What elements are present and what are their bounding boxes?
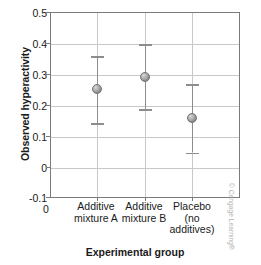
y-tick-label: 0.3 (17, 70, 47, 80)
data-point-group[interactable] (145, 13, 146, 197)
error-bar-cap-lower (91, 123, 104, 125)
data-point-group[interactable] (192, 13, 193, 197)
y-tick-label: 0.5 (17, 8, 47, 18)
x-tick-label-line: additives) (157, 224, 227, 236)
error-bar-cap-upper (139, 44, 152, 46)
y-tick-label: 0 (17, 163, 47, 173)
error-bar-cap-upper (91, 56, 104, 58)
error-bar-cap-lower (139, 109, 152, 111)
x-tick-label-placebo: Placebo (no additives) (157, 201, 227, 236)
chart-figure: Observed hyperactivity 0.5 0.4 0.3 0.2 0… (0, 0, 261, 265)
x-tick-label-line: Placebo (157, 201, 227, 213)
y-tick-label: 0.4 (17, 39, 47, 49)
data-point-marker[interactable] (187, 113, 197, 123)
x-axis-tick-labels: Additive mixture A Additive mixture B Pl… (0, 201, 261, 246)
copyright-credit: © Cengage Learning® (228, 183, 235, 265)
data-point-marker[interactable] (140, 72, 150, 82)
y-tick-label: 0.2 (17, 101, 47, 111)
data-point-group[interactable] (97, 13, 98, 197)
error-bar-cap-upper (186, 84, 199, 86)
plot-area (50, 12, 240, 198)
x-axis-title: Experimental group (35, 246, 235, 258)
error-bar-cap-lower (186, 153, 199, 155)
data-point-marker[interactable] (92, 84, 102, 94)
y-tick-label: 0.1 (17, 132, 47, 142)
